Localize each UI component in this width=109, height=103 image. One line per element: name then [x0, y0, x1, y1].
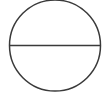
circle-diagram-svg [0, 0, 109, 103]
background-rect [0, 0, 109, 103]
figure-canvas [0, 0, 109, 103]
